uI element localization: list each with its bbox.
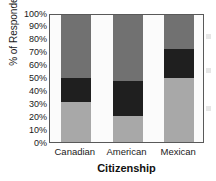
- bar-segment-top-segment: [61, 14, 91, 78]
- x-tick-mark: [102, 142, 103, 143]
- bar-segment-middle-segment: [113, 81, 143, 116]
- bar-segment-bottom-segment: [61, 102, 91, 142]
- y-tick-mark: [49, 131, 50, 132]
- y-tick-mark: [49, 105, 50, 106]
- bar-american: [113, 15, 143, 142]
- bar-segment-middle-segment: [164, 49, 194, 77]
- y-tick-label: 0%: [14, 139, 47, 148]
- plot-area: [49, 14, 204, 143]
- y-tick-label: 40%: [14, 87, 47, 96]
- y-tick-label: 60%: [14, 61, 47, 70]
- bar-segment-middle-segment: [61, 78, 91, 103]
- bar-segment-bottom-segment: [113, 116, 143, 142]
- bar-segment-bottom-segment: [164, 78, 194, 143]
- x-tick-label: Mexican: [152, 146, 204, 157]
- bar-mexican: [164, 15, 194, 142]
- y-tick-mark: [49, 41, 50, 42]
- bar-segment-top-segment: [164, 14, 194, 49]
- bar-chart: % of Respondents 0%10%20%30%40%50%60%70%…: [0, 0, 216, 181]
- y-tick-label: 20%: [14, 113, 47, 122]
- legend-clipped: [204, 20, 216, 130]
- x-tick-mark: [153, 142, 154, 143]
- y-tick-mark: [49, 28, 50, 29]
- y-axis-tick-labels: 0%10%20%30%40%50%60%70%80%90%100%: [14, 8, 47, 149]
- y-tick-label: 100%: [14, 10, 47, 19]
- y-tick-label: 30%: [14, 100, 47, 109]
- bar-canadian: [61, 15, 91, 142]
- y-tick-label: 80%: [14, 35, 47, 44]
- y-tick-label: 10%: [14, 126, 47, 135]
- y-tick-mark: [49, 92, 50, 93]
- y-tick-label: 70%: [14, 48, 47, 57]
- y-tick-mark: [49, 67, 50, 68]
- y-tick-mark: [49, 15, 50, 16]
- y-tick-mark: [49, 118, 50, 119]
- bar-segment-top-segment: [113, 14, 143, 81]
- y-tick-mark: [49, 80, 50, 81]
- x-tick-label: American: [101, 146, 153, 157]
- y-tick-label: 50%: [14, 74, 47, 83]
- x-axis-title: Citizenship: [49, 162, 204, 174]
- y-tick-label: 90%: [14, 22, 47, 31]
- x-tick-label: Canadian: [49, 146, 101, 157]
- y-tick-mark: [49, 54, 50, 55]
- x-axis-tick-labels: CanadianAmericanMexican: [49, 146, 204, 160]
